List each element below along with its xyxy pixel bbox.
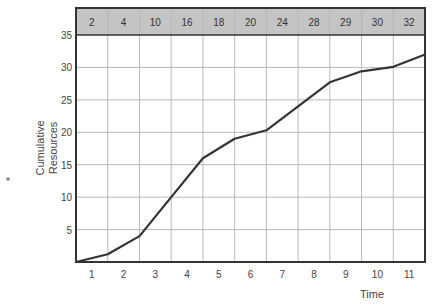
x-tick-label: 5 (216, 269, 222, 280)
header-cell-value: 30 (372, 17, 384, 28)
y-axis-title: Cumulative Resources (34, 120, 59, 175)
header-cell-value: 2 (89, 17, 95, 28)
x-tick-label: 3 (153, 269, 159, 280)
x-axis-title: Time (360, 288, 384, 300)
x-tick-label: 11 (404, 269, 415, 280)
y-tick-label: 35 (61, 30, 73, 41)
header-cell-value: 24 (277, 17, 289, 28)
y-tick-label: 5 (66, 225, 72, 236)
x-tick-label: 8 (311, 269, 317, 280)
x-axis-ticks: 1234567891011 (89, 269, 415, 280)
series-line (76, 55, 425, 263)
header-cell-value: 4 (121, 17, 127, 28)
x-tick-label: 9 (343, 269, 349, 280)
y-tick-label: 30 (61, 62, 73, 73)
y-axis-marker: * (6, 176, 10, 187)
svg-text:Cumulative: Cumulative (34, 120, 46, 175)
header-cell-value: 28 (308, 17, 320, 28)
y-tick-label: 25 (61, 95, 73, 106)
header-band: 24101618202428293032 (76, 8, 425, 35)
x-tick-label: 2 (121, 269, 127, 280)
y-tick-label: 10 (61, 192, 73, 203)
header-cell-value: 10 (150, 17, 162, 28)
header-cell-value: 20 (245, 17, 257, 28)
x-tick-label: 10 (372, 269, 384, 280)
x-tick-label: 4 (184, 269, 190, 280)
y-tick-label: 20 (61, 127, 73, 138)
header-cell-value: 32 (404, 17, 416, 28)
header-cell-value: 16 (181, 17, 193, 28)
y-axis-ticks: 5101520253035 (61, 30, 73, 236)
cumulative-resources-chart: 24101618202428293032 5101520253035 12345… (0, 0, 434, 305)
svg-text:Resources: Resources (47, 121, 59, 174)
header-cell-value: 18 (213, 17, 225, 28)
x-tick-label: 1 (89, 269, 95, 280)
x-tick-label: 7 (279, 269, 285, 280)
x-tick-label: 6 (248, 269, 254, 280)
y-tick-label: 15 (61, 160, 73, 171)
header-cell-value: 29 (340, 17, 352, 28)
